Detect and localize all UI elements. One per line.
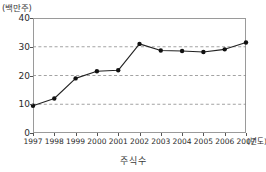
data-point: [73, 76, 77, 80]
y-tick-label: 40: [19, 14, 30, 23]
x-tick-label: 2004: [173, 138, 192, 146]
y-tick-label: 20: [19, 71, 30, 80]
x-axis-unit-label: (년도): [247, 138, 266, 146]
x-tick-label: 1999: [66, 138, 85, 146]
data-point: [95, 69, 99, 73]
data-point: [244, 40, 248, 44]
y-tick-mark: [30, 76, 33, 77]
x-tick-mark: [97, 133, 98, 136]
y-tick-mark: [30, 18, 33, 19]
x-tick-label: 2005: [194, 138, 213, 146]
x-tick-mark: [33, 133, 34, 136]
data-point: [159, 48, 163, 52]
x-tick-mark: [182, 133, 183, 136]
y-tick-label: 30: [19, 42, 30, 51]
data-point: [137, 42, 141, 46]
y-axis-unit-label: (백만주): [2, 1, 32, 13]
chart-canvas: [33, 18, 246, 133]
y-tick-label: 10: [19, 100, 30, 109]
plot-area: 010203040 199719981999200020012002200320…: [33, 18, 246, 133]
x-tick-mark: [54, 133, 55, 136]
data-point: [116, 68, 120, 72]
data-point: [52, 96, 56, 100]
x-tick-mark: [161, 133, 162, 136]
chart-figure: (백만주) 010203040 199719981999200020012002…: [0, 0, 266, 172]
x-tick-label: 2002: [130, 138, 149, 146]
x-tick-mark: [76, 133, 77, 136]
gridlines: [33, 47, 246, 105]
series-line: [33, 42, 246, 105]
x-tick-label: 1998: [45, 138, 64, 146]
x-tick-mark: [246, 133, 247, 136]
x-tick-mark: [225, 133, 226, 136]
data-point: [223, 47, 227, 51]
data-point: [201, 50, 205, 54]
x-tick-label: 2003: [151, 138, 170, 146]
data-point: [180, 49, 184, 53]
x-tick-mark: [203, 133, 204, 136]
y-tick-mark: [30, 104, 33, 105]
x-tick-label: 2001: [109, 138, 128, 146]
chart-caption: 주식수: [0, 154, 266, 167]
x-tick-label: 2006: [215, 138, 234, 146]
x-tick-mark: [118, 133, 119, 136]
x-tick-mark: [140, 133, 141, 136]
x-tick-label: 1997: [23, 138, 42, 146]
y-tick-mark: [30, 47, 33, 48]
x-tick-label: 2000: [87, 138, 106, 146]
